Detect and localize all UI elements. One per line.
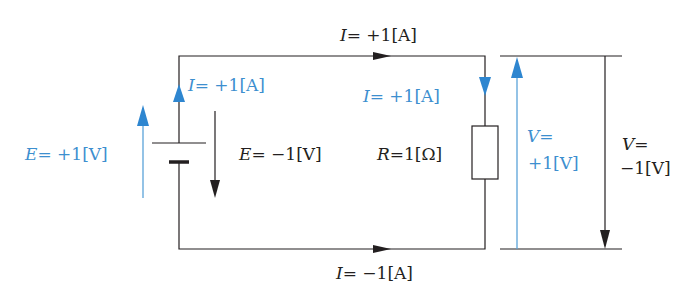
emf-blue-label: E= +1[V] <box>25 146 108 163</box>
resistor <box>472 126 498 179</box>
var-symbol: R <box>377 144 390 164</box>
voltage-blue-label-line2: +1[V] <box>528 155 579 172</box>
var-symbol: E <box>239 144 251 164</box>
emf-blue-arrow-icon <box>137 105 149 126</box>
var-symbol: V <box>622 134 634 154</box>
voltage-blue-label-line1: V= <box>527 128 554 145</box>
left-current-arrow-icon <box>173 84 185 102</box>
value-text: = +1[A] <box>347 25 417 45</box>
var-symbol: I <box>363 86 370 106</box>
circuit-diagram: I= +1[A] I= +1[A] I= +1[A] I= −1[A] E= +… <box>0 0 700 300</box>
var-symbol: I <box>188 75 195 95</box>
value-text: =1[Ω] <box>390 144 442 164</box>
right-current-label: I= +1[A] <box>363 88 440 105</box>
value-text: = +1[V] <box>37 144 107 164</box>
value-text: = −1[V] <box>251 144 321 164</box>
voltage-black-label-line1: V= <box>622 136 649 153</box>
left-current-label: I= +1[A] <box>188 77 265 94</box>
emf-black-arrow-icon <box>210 180 220 198</box>
voltage-black-label-line2: −1[V] <box>620 160 671 177</box>
emf-black-label: E= −1[V] <box>239 146 322 163</box>
resistance-label: R=1[Ω] <box>377 146 442 163</box>
var-symbol: V <box>527 126 539 146</box>
bottom-current-label: I= −1[A] <box>336 265 413 282</box>
var-symbol: I <box>340 25 347 45</box>
value-text: = +1[A] <box>370 86 440 106</box>
value-text: = +1[A] <box>195 75 265 95</box>
top-current-arrowhead-icon <box>373 52 391 60</box>
var-symbol: E <box>25 144 37 164</box>
voltage-black-arrow-icon <box>600 230 610 249</box>
voltage-blue-arrow-icon <box>511 57 523 78</box>
bottom-current-arrowhead-icon <box>373 245 391 253</box>
var-symbol: I <box>336 263 343 283</box>
value-text: = −1[A] <box>343 263 413 283</box>
right-current-arrow-icon <box>479 77 491 96</box>
value-text: = <box>539 126 553 146</box>
top-current-label: I= +1[A] <box>340 27 417 44</box>
value-text: = <box>634 134 648 154</box>
